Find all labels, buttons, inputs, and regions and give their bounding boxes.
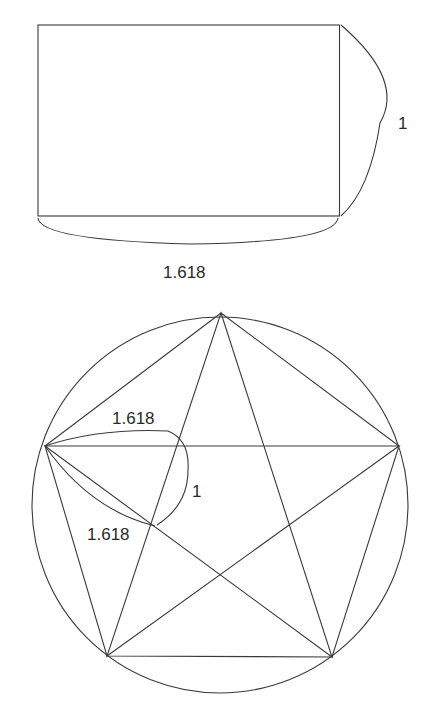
pentagram-star (45, 313, 399, 657)
golden-rectangle-figure: 1 1.618 (38, 25, 407, 282)
width-brace-arc (38, 218, 338, 244)
height-label: 1 (398, 114, 407, 133)
pentagram-figure: 1.618 1 1.618 (32, 313, 408, 693)
circumscribed-circle (32, 317, 408, 693)
width-label: 1.618 (163, 263, 206, 282)
lower-segment-label: 1.618 (87, 525, 130, 544)
golden-rectangle (38, 25, 340, 216)
height-brace-arc (341, 25, 387, 216)
diagram-canvas: 1 1.618 1.618 1 1.618 (0, 0, 435, 706)
inner-segment-label: 1 (192, 482, 201, 501)
upper-segment-label: 1.618 (112, 409, 155, 428)
